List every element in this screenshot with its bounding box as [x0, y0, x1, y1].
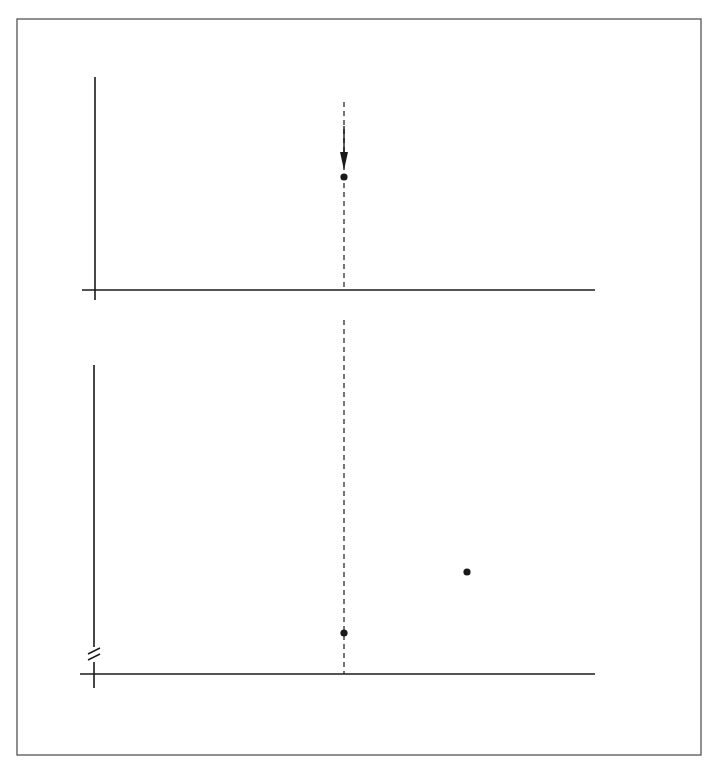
axis-break-icon — [88, 648, 100, 660]
figure-frame — [17, 19, 701, 755]
bottom-chart — [80, 365, 595, 688]
mc-minimum-dot — [340, 629, 347, 636]
cost-curves-figure — [0, 0, 713, 772]
top-chart — [82, 77, 595, 300]
mc-ac-intersection-dot — [463, 568, 470, 575]
